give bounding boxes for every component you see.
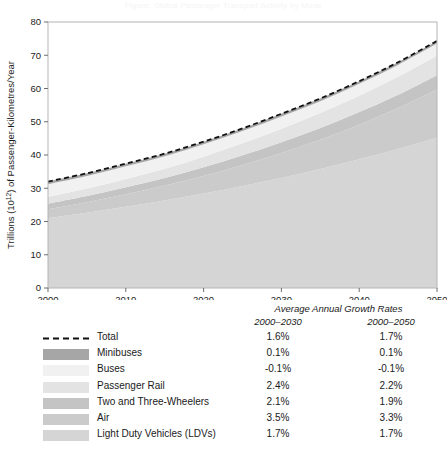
growth-2000-2030-value: 2.4%	[232, 380, 324, 391]
growth-2000-2030-value: 3.5%	[232, 412, 324, 423]
legend-row[interactable]: Total1.6%1.7%	[0, 330, 447, 346]
legend-color-swatch	[43, 398, 89, 409]
growth-2000-2050-value: -0.1%	[345, 363, 437, 374]
growth-2000-2050-value: 1.7%	[345, 331, 437, 342]
legend-label: Passenger Rail	[97, 380, 165, 391]
growth-2000-2050-value: 1.7%	[345, 428, 437, 439]
growth-2000-2030-value: -0.1%	[232, 363, 324, 374]
growth-2000-2050-value: 0.1%	[345, 347, 437, 358]
legend-dashed-line-swatch	[43, 333, 89, 344]
y-tick-label: 80	[30, 16, 41, 27]
legend-color-swatch	[43, 365, 89, 376]
legend-row[interactable]: Light Duty Vehicles (LDVs)1.7%1.7%	[0, 427, 447, 443]
legend-label: Total	[97, 331, 118, 342]
y-axis-title: Trillions (1012) of Passenger-Kilometres…	[5, 61, 17, 249]
legend-color-swatch	[43, 382, 89, 393]
legend-swatch	[43, 414, 89, 425]
legend-row[interactable]: Minibuses0.1%0.1%	[0, 346, 447, 362]
growth-2000-2050-value: 3.3%	[345, 412, 437, 423]
legend-rows: Total1.6%1.7%Minibuses0.1%0.1%Buses-0.1%…	[0, 330, 447, 443]
figure-container: Figure: Global Passenger Transport Activ…	[0, 0, 447, 454]
growth-col-2000-2030-header: 2000–2030	[232, 316, 324, 327]
growth-2000-2030-value: 1.6%	[232, 331, 324, 342]
legend-label: Buses	[97, 363, 125, 374]
legend-color-swatch	[43, 414, 89, 425]
legend-swatch	[43, 398, 89, 409]
legend-row[interactable]: Passenger Rail2.4%2.2%	[0, 379, 447, 395]
legend-swatch	[43, 365, 89, 376]
y-tick-label: 40	[30, 149, 41, 160]
growth-2000-2050-value: 1.9%	[345, 396, 437, 407]
y-tick-label: 30	[30, 183, 41, 194]
legend-swatch	[43, 430, 89, 441]
growth-2000-2050-value: 2.2%	[345, 380, 437, 391]
growth-2000-2030-value: 1.7%	[232, 428, 324, 439]
growth-2000-2030-value: 0.1%	[232, 347, 324, 358]
chart-title: Figure: Global Passenger Transport Activ…	[0, 0, 447, 12]
growth-rates-header: Average Annual Growth Rates	[236, 303, 441, 314]
y-tick-label: 60	[30, 83, 41, 94]
legend-row[interactable]: Two and Three-Wheelers2.1%1.9%	[0, 395, 447, 411]
legend-label: Air	[97, 412, 109, 423]
legend-and-growth-table: Average Annual Growth Rates 2000–2030 20…	[0, 300, 447, 454]
legend-label: Light Duty Vehicles (LDVs)	[97, 428, 216, 439]
growth-col-2000-2050-header: 2000–2050	[345, 316, 437, 327]
y-tick-label: 20	[30, 216, 41, 227]
legend-swatch	[43, 349, 89, 360]
legend-color-swatch	[43, 430, 89, 441]
svg-text:Trillions (1012) of Passenger-: Trillions (1012) of Passenger-Kilometres…	[5, 61, 17, 249]
y-tick-label: 50	[30, 116, 41, 127]
y-tick-label: 70	[30, 50, 41, 61]
growth-2000-2030-value: 2.1%	[232, 396, 324, 407]
legend-swatch	[43, 382, 89, 393]
y-tick-label: 0	[36, 282, 41, 293]
legend-label: Minibuses	[97, 347, 142, 358]
legend-label: Two and Three-Wheelers	[97, 396, 209, 407]
stacked-area-chart: 0102030405060708020002010202020302040205…	[0, 0, 447, 300]
legend-row[interactable]: Air3.5%3.3%	[0, 411, 447, 427]
legend-color-swatch	[43, 349, 89, 360]
legend-row[interactable]: Buses-0.1%-0.1%	[0, 362, 447, 378]
y-tick-label: 10	[30, 249, 41, 260]
